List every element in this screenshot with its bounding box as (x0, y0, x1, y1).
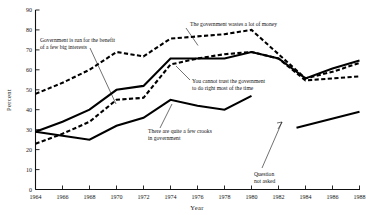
annotation-label-cannot-trust-line1: You cannot trust the government (192, 78, 266, 84)
line-chart: 0 10 20 30 40 50 60 70 80 90 196 (0, 0, 366, 215)
annotation-label-cannot-trust-line2: to do right most of the time (192, 85, 254, 91)
y-tick-label-50: 50 (26, 87, 32, 93)
y-tick-label-10: 10 (26, 167, 32, 173)
x-tick-label-1970: 1970 (111, 194, 123, 200)
annotation-label-crooks-line1: There are quite a few crooks (148, 128, 212, 134)
x-axis-title: Year (190, 204, 204, 211)
x-tick-label-1964: 1964 (30, 194, 42, 200)
chart-background (0, 0, 366, 215)
x-tick-label-1982: 1982 (273, 194, 285, 200)
y-tick-label-20: 20 (26, 147, 32, 153)
y-tick-label-70: 70 (26, 47, 32, 53)
x-tick-label-1986: 1986 (327, 194, 339, 200)
y-tick-label-30: 30 (26, 127, 32, 133)
chart-container: 0 10 20 30 40 50 60 70 80 90 196 (0, 0, 366, 215)
annotation-label-wastes-money: The government wastes a lot of money (190, 21, 277, 27)
x-tick-label-1988: 1988 (354, 194, 366, 200)
x-tick-label-1968: 1968 (84, 194, 96, 200)
y-tick-label-0: 0 (29, 187, 32, 193)
x-tick-label-1976: 1976 (192, 194, 204, 200)
annotation-label-question-not-asked-line2: not asked (254, 178, 275, 184)
y-tick-label-40: 40 (26, 107, 32, 113)
x-tick-label-1980: 1980 (246, 194, 258, 200)
y-tick-label-80: 80 (26, 27, 32, 33)
y-axis-title: Percent (5, 89, 12, 111)
annotation-label-big-interests-line2: of a few big interests (40, 44, 87, 50)
x-tick-label-1966: 1966 (57, 194, 69, 200)
y-tick-label-90: 90 (26, 7, 32, 13)
y-tick-label-60: 60 (26, 67, 32, 73)
annotation-label-crooks-line2: in government (148, 135, 181, 141)
x-tick-label-1974: 1974 (165, 194, 177, 200)
annotation-label-question-not-asked-line1: Question (254, 171, 274, 177)
x-tick-label-1978: 1978 (219, 194, 231, 200)
x-tick-label-1972: 1972 (138, 194, 150, 200)
annotation-label-big-interests-line1: Government is run for the benefit (40, 37, 115, 43)
x-tick-label-1984: 1984 (300, 194, 312, 200)
